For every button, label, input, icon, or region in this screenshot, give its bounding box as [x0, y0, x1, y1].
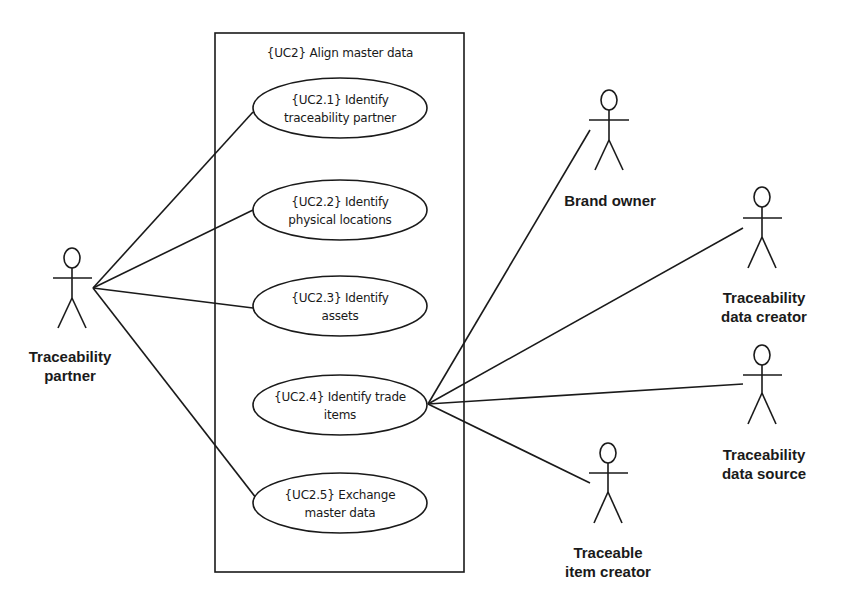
use-case-uc2-4[interactable]: {UC2.4} Identify trade items [253, 375, 427, 435]
use-case-label-line2: physical locations [288, 213, 391, 227]
use-case-ellipse[interactable] [253, 180, 427, 240]
stick-figure-icon [589, 90, 629, 170]
actor-label-line2: data source [722, 465, 806, 482]
use-case-uc2-3[interactable]: {UC2.3} Identify assets [253, 276, 427, 336]
use-case-ellipse[interactable] [253, 276, 427, 336]
actor-traceability-data-creator[interactable]: Traceability data creator [721, 187, 807, 325]
use-case-label-line1: {UC2.1} Identify [291, 93, 389, 107]
use-case-uc2-1[interactable]: {UC2.1} Identify traceability partner [253, 78, 427, 138]
actor-label-line2: data creator [721, 308, 807, 325]
actor-label-line2: item creator [565, 563, 651, 580]
actor-label-line1: Traceability [723, 289, 806, 306]
actor-label-line2: partner [44, 367, 96, 384]
actor-traceability-partner[interactable]: Traceability partner [29, 248, 112, 384]
use-case-uc2-2[interactable]: {UC2.2} Identify physical locations [253, 180, 427, 240]
actor-label-line1: Traceability [29, 348, 112, 365]
association-uc24-data-source [428, 384, 743, 404]
use-case-uc2-5[interactable]: {UC2.5} Exchange master data [253, 473, 427, 533]
use-case-label-line2: master data [305, 506, 376, 520]
stick-figure-icon [743, 187, 782, 268]
actor-traceability-data-source[interactable]: Traceability data source [722, 345, 806, 482]
use-case-label-line2: traceability partner [284, 111, 396, 125]
use-case-label-line2: assets [322, 309, 359, 323]
actor-traceable-item-creator[interactable]: Traceable item creator [565, 443, 651, 580]
use-case-label-line1: {UC2.5} Exchange [285, 488, 396, 502]
actor-label-line1: Traceable [573, 544, 642, 561]
use-case-label-line1: {UC2.2} Identify [291, 195, 389, 209]
use-case-label-line1: {UC2.4} Identify trade [274, 390, 406, 404]
use-case-label-line2: items [324, 408, 356, 422]
system-title: {UC2} Align master data [267, 46, 413, 60]
stick-figure-icon [53, 248, 92, 328]
association-uc24-data-creator [428, 228, 743, 404]
actor-label-line1: Traceability [723, 446, 806, 463]
actor-label-line1: Brand owner [564, 192, 656, 209]
stick-figure-icon [589, 443, 628, 523]
use-case-diagram: {UC2} Align master data {UC2.1} Identify… [0, 0, 845, 607]
stick-figure-icon [743, 345, 782, 424]
use-case-ellipse[interactable] [253, 473, 427, 533]
use-case-label-line1: {UC2.3} Identify [291, 291, 389, 305]
use-case-ellipse[interactable] [253, 78, 427, 138]
use-case-ellipse[interactable] [253, 375, 427, 435]
